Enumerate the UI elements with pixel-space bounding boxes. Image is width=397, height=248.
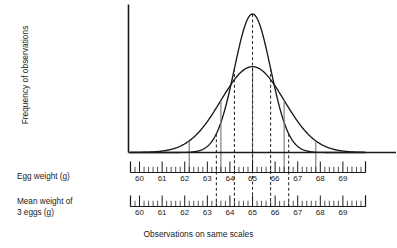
mean-weight-axis-tick-label: 65 <box>244 208 262 217</box>
mean-weight-axis-tick-label: 64 <box>221 208 239 217</box>
egg-weight-axis-tick-label: 61 <box>153 174 171 183</box>
egg-weight-axis-tick-label: 62 <box>176 174 194 183</box>
egg-weight-axis-tick-label: 63 <box>198 174 216 183</box>
egg-weight-axis-tick-label: 69 <box>334 174 352 183</box>
mean-weight-axis-tick-label: 61 <box>153 208 171 217</box>
mean-weight-axis-tick-label: 67 <box>289 208 307 217</box>
egg-weight-axis-tick-label: 64 <box>221 174 239 183</box>
normal-distribution-figure: Frequency of observations Egg weight (g)… <box>0 0 397 248</box>
distribution-curve-mean-of-3 <box>131 14 366 153</box>
mean-weight-axis-tick-label: 69 <box>334 208 352 217</box>
mean-weight-axis-tick-label: 66 <box>266 208 284 217</box>
distribution-curve-egg-weight <box>131 67 366 153</box>
egg-weight-axis-tick-label: 67 <box>289 174 307 183</box>
mean-weight-axis-tick-label: 62 <box>176 208 194 217</box>
egg-weight-axis-tick-label: 68 <box>311 174 329 183</box>
egg-weight-axis-tick-label: 60 <box>131 174 149 183</box>
mean-weight-axis-tick-label: 68 <box>311 208 329 217</box>
mean-weight-axis-tick-label: 63 <box>198 208 216 217</box>
mean-weight-axis-tick-label: 60 <box>131 208 149 217</box>
egg-weight-axis-tick-label: 65 <box>244 174 262 183</box>
egg-weight-axis-tick-label: 66 <box>266 174 284 183</box>
